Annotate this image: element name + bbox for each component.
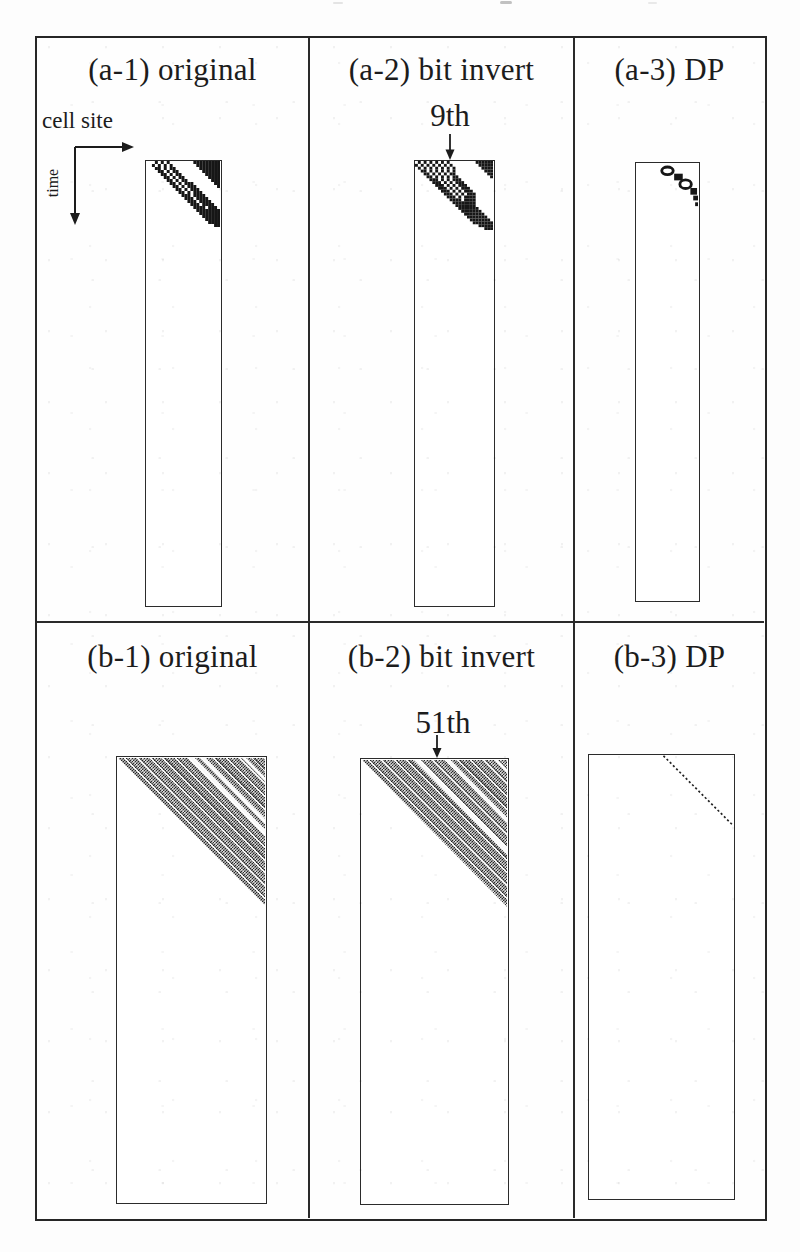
scan-bleed-mark <box>648 2 657 4</box>
scanned-figure-page: { "figure": { "axis_labels": { "x": "cel… <box>0 0 800 1252</box>
scan-bleed-mark <box>500 1 512 4</box>
scan-bleed-mark <box>333 2 343 4</box>
damage-pattern-a3 <box>636 163 698 213</box>
panel-a2-title: (a-2) bit invert <box>310 52 573 88</box>
panel-b2: (b-2) bit invert 51th <box>308 621 573 1218</box>
damage-line-b3 <box>589 755 733 835</box>
ca-pattern-a1 <box>146 161 220 227</box>
panel-a3: (a-3) DP <box>573 38 764 621</box>
panel-a2: (a-2) bit invert 9th <box>308 38 573 621</box>
x-axis-label: cell site <box>42 108 113 134</box>
spacetime-plot-a3 <box>635 162 700 602</box>
figure-frame: (a-1) original cell site time (a-2) bit … <box>35 36 767 1221</box>
ca-pattern-b2 <box>362 760 507 907</box>
panel-b1: (b-1) original <box>37 621 308 1218</box>
y-axis-label-wrap: time <box>44 151 66 215</box>
y-axis-label: time <box>44 169 61 197</box>
panel-grid: (a-1) original cell site time (a-2) bit … <box>37 38 765 1219</box>
panel-b3: (b-3) DP <box>573 621 764 1218</box>
axes-arrows-icon <box>67 138 139 230</box>
spacetime-plot-b2 <box>360 758 509 1205</box>
annotation-9th: 9th <box>430 98 470 134</box>
panel-a1-title: (a-1) original <box>37 52 308 88</box>
spacetime-plot-b1 <box>116 756 267 1204</box>
annotation-arrow-icon <box>443 134 457 161</box>
panel-b1-title: (b-1) original <box>37 639 308 675</box>
panel-b3-title: (b-3) DP <box>575 639 764 675</box>
ca-texture <box>118 758 265 905</box>
panel-b2-title: (b-2) bit invert <box>310 639 573 675</box>
spacetime-plot-b3 <box>588 754 735 1200</box>
annotation-arrow-icon <box>430 735 444 759</box>
spacetime-plot-a1 <box>145 160 222 607</box>
ca-pattern-b1 <box>118 758 265 905</box>
spacetime-plot-a2 <box>414 160 495 607</box>
panel-a1: (a-1) original cell site time <box>37 38 308 621</box>
panel-a3-title: (a-3) DP <box>575 52 764 88</box>
ca-pattern-a2 <box>415 161 493 230</box>
